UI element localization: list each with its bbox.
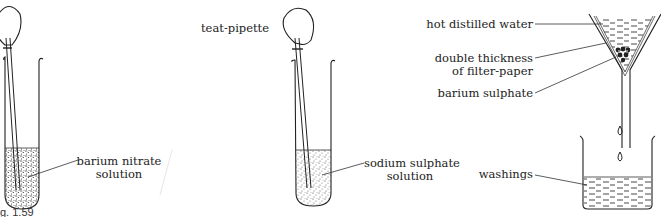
label-barium-nitrate-solution: barium nitrate solution — [76, 155, 162, 181]
label-double-thickness-filter-paper: double thickness of filter-paper — [412, 52, 533, 78]
leader-line-precipitate — [535, 57, 616, 93]
label-teat-pipette: teat-pipette — [201, 22, 269, 35]
leader-line-filter — [535, 43, 606, 58]
label-hot-distilled-water: hot distilled water — [412, 18, 533, 31]
beaker — [580, 136, 655, 209]
figure-caption: g. 1.59 — [0, 206, 34, 217]
label-sodium-sulphate-solution: sodium sulphate solution — [364, 157, 456, 183]
label-barium-sulphate: barium sulphate — [412, 87, 533, 100]
label-line: solution — [364, 170, 456, 183]
filter-funnel — [589, 14, 661, 148]
apparatus-drawing — [0, 0, 661, 217]
apparatus-figure: barium nitrate solution teat-pipette sod… — [0, 0, 661, 217]
label-line: of filter-paper — [412, 65, 533, 78]
label-washings: washings — [460, 168, 533, 181]
leader-line-washings — [535, 175, 587, 185]
test-tube-1 — [4, 57, 43, 209]
label-line: solution — [76, 168, 162, 181]
falling-drops — [618, 126, 622, 161]
